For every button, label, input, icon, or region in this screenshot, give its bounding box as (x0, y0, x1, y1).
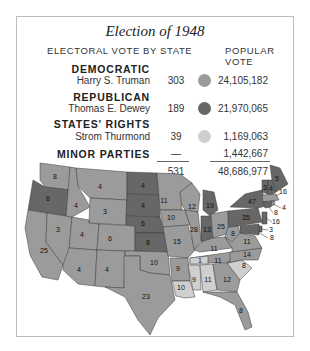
svg-text:10: 10 (167, 214, 175, 221)
state-iowa (160, 210, 190, 227)
svg-text:4: 4 (105, 266, 109, 273)
svg-text:28: 28 (190, 226, 198, 233)
svg-text:3: 3 (103, 208, 107, 215)
svg-text:8: 8 (146, 239, 150, 246)
svg-text:3: 3 (56, 226, 60, 233)
svg-text:4: 4 (98, 183, 102, 190)
state-kansas (135, 233, 168, 252)
svg-text:25: 25 (40, 247, 48, 254)
svg-text:16: 16 (279, 188, 287, 195)
state-massachusetts (262, 194, 279, 202)
svg-text:12: 12 (188, 203, 196, 210)
svg-text:12: 12 (223, 276, 231, 283)
svg-text:8: 8 (231, 230, 235, 237)
svg-text:11: 11 (210, 245, 217, 252)
svg-text:4: 4 (80, 231, 84, 238)
svg-text:8: 8 (270, 234, 274, 241)
state-florida (203, 292, 252, 330)
state-new-mexico (95, 250, 125, 288)
svg-text:1: 1 (198, 257, 202, 264)
svg-text:8: 8 (239, 307, 243, 314)
svg-text:6: 6 (108, 235, 112, 242)
svg-text:11: 11 (160, 197, 167, 204)
state-arkansas (170, 258, 190, 281)
svg-text:8: 8 (242, 262, 246, 269)
svg-text:11: 11 (204, 276, 211, 283)
svg-text:9: 9 (192, 276, 196, 283)
state-wyoming (89, 198, 127, 225)
state-colorado (97, 224, 135, 251)
svg-text:25: 25 (217, 223, 225, 230)
svg-text:10: 10 (177, 284, 185, 291)
svg-text:4: 4 (77, 266, 81, 273)
svg-text:6: 6 (141, 220, 145, 227)
svg-text:11: 11 (243, 238, 250, 245)
svg-text:3: 3 (263, 184, 267, 191)
svg-text:10: 10 (150, 259, 158, 266)
svg-text:47: 47 (248, 198, 256, 205)
state-connecticut (263, 201, 272, 208)
svg-text:19: 19 (206, 202, 214, 209)
svg-text:9: 9 (176, 265, 180, 272)
svg-text:5: 5 (275, 175, 279, 182)
svg-text:14: 14 (243, 251, 251, 258)
svg-text:4: 4 (141, 182, 145, 189)
state-maryland (240, 224, 259, 235)
svg-text:3: 3 (269, 226, 273, 233)
svg-text:4: 4 (269, 185, 273, 192)
svg-text:4: 4 (141, 202, 145, 209)
svg-text:6: 6 (46, 195, 50, 202)
svg-text:16: 16 (272, 218, 280, 225)
svg-text:8: 8 (53, 173, 57, 180)
us-electoral-map: 8 6 25 3 4 4 3 4 4 6 4 4 4 6 8 10 23 11 … (0, 0, 310, 351)
svg-text:13: 13 (203, 226, 211, 233)
state-rhode-island (271, 201, 275, 206)
svg-text:11: 11 (214, 257, 221, 264)
svg-text:15: 15 (173, 238, 181, 245)
svg-text:23: 23 (142, 293, 150, 300)
svg-text:8: 8 (274, 209, 278, 216)
svg-text:4: 4 (74, 202, 78, 209)
svg-text:35: 35 (242, 214, 250, 221)
svg-text:4: 4 (282, 204, 286, 211)
